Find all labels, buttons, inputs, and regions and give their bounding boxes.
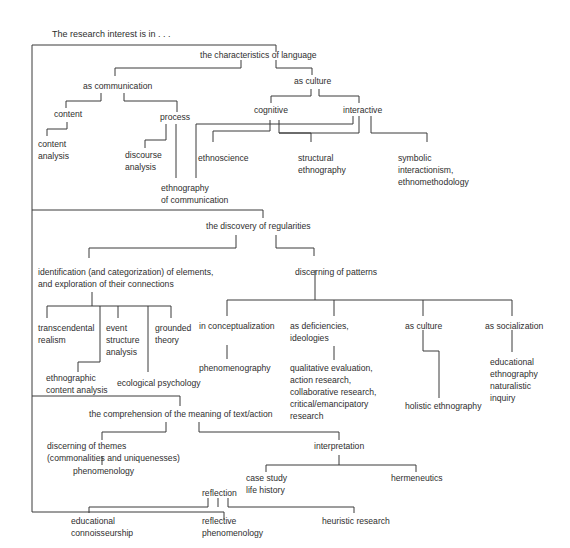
node-holistic-ethnography: holistic ethnography [405,400,481,412]
diagram-title: The research interest is in . . . [52,28,171,40]
node-ecological-psychology: ecological psychology [117,377,201,389]
node-comprehension-of-meaning: the comprehension of the meaning of text… [89,408,272,420]
node-hermeneutics: hermeneutics [391,472,443,484]
node-educational-connoisseurship: educational connoisseurship [71,515,133,539]
node-interactive: interactive [343,104,382,116]
node-discerning-of-patterns: discerning of patterns [295,266,377,278]
node-interpretation: interpretation [314,440,364,452]
research-interest-tree-diagram: The research interest is in . . . the ch… [0,0,570,548]
node-symbolic-interactionism: symbolic interactionism, ethnomethodolog… [398,152,469,188]
node-discourse-analysis: discourse analysis [125,149,162,173]
node-educational-ethnography: educational ethnography naturalistic inq… [490,356,538,404]
node-qualitative-evaluation: qualitative evaluation, action research,… [290,362,376,422]
node-grounded-theory: grounded theory [155,322,191,346]
node-in-conceptualization: in conceptualization [199,320,275,332]
node-reflection: reflection [202,487,237,499]
node-heuristic-research: heuristic research [322,515,390,527]
node-ethnography-of-communication: ethnography of communication [161,182,228,206]
node-transcendental-realism: transcendental realism [38,322,94,346]
node-discovery-of-regularities: the discovery of regularities [206,220,311,232]
node-phenomenography: phenomenography [199,362,271,374]
node-ethnoscience: ethnoscience [198,152,249,164]
node-case-study-life-history: case study life history [246,472,287,496]
node-discerning-of-themes: discerning of themes (commonalities and … [47,440,180,464]
node-as-deficiencies-ideologies: as deficiencies, ideologies [290,320,349,344]
node-event-structure-analysis: event structure analysis [106,322,139,358]
node-ethnographic-content-analysis: ethnographic content analysis [46,372,108,396]
node-reflective-phenomenology: reflective phenomenology [202,515,263,539]
node-cognitive: cognitive [254,104,288,116]
node-phenomenology: phenomenology [73,465,134,477]
node-content-analysis: content analysis [38,138,69,162]
node-as-culture-language: as culture [294,75,331,87]
node-characteristics-of-language: the characteristics of language [200,49,317,61]
node-as-culture-patterns: as culture [405,320,442,332]
node-as-communication: as communication [83,80,152,92]
node-process: process [160,111,190,123]
node-structural-ethnography: structural ethnography [298,152,346,176]
node-identification-of-elements: identification (and categorization) of e… [38,266,213,290]
node-content: content [54,108,82,120]
node-as-socialization: as socialization [485,320,543,332]
